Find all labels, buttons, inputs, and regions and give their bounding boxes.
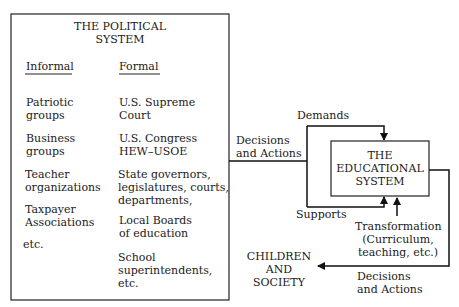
transformation-label: Transformation (Curriculum, teaching, et…: [355, 220, 441, 259]
political-title-line1: THE POLITICAL: [11, 20, 229, 33]
informal-item: etc.: [23, 238, 44, 251]
formal-item: U.S. SupremeCourt: [119, 96, 195, 122]
decisions-out-label: Decisionsand Actions: [357, 270, 423, 296]
political-title-line2: SYSTEM: [11, 33, 229, 46]
formal-item: HEW–USOE: [119, 145, 187, 158]
supports-arrow: [307, 197, 384, 207]
formal-header: Formal: [119, 60, 158, 73]
children-society-label: CHILDREN AND SOCIETY: [244, 250, 314, 289]
informal-item: Patrioticgroups: [26, 96, 73, 122]
informal-header: Informal: [26, 60, 74, 73]
demands-label: Demands: [297, 109, 349, 122]
formal-item: Schoolsuperintendents,etc.: [118, 251, 212, 290]
informal-item: Teacherorganizations: [25, 168, 101, 194]
formal-item: Local Boardsof education: [119, 214, 192, 240]
educational-system-label: THE EDUCATIONAL SYSTEM: [331, 149, 429, 188]
informal-item: TaxpayerAssociations: [25, 203, 94, 229]
decisions-in-label: Decisionsand Actions: [236, 134, 302, 160]
demands-arrow: [307, 126, 384, 140]
political-system-title: THE POLITICAL SYSTEM: [11, 20, 229, 46]
informal-item: Businessgroups: [26, 132, 75, 158]
supports-label: Supports: [296, 208, 347, 221]
formal-item: U.S. Congress: [119, 132, 197, 145]
formal-item: State governors,legislatures, courts,dep…: [118, 168, 229, 207]
